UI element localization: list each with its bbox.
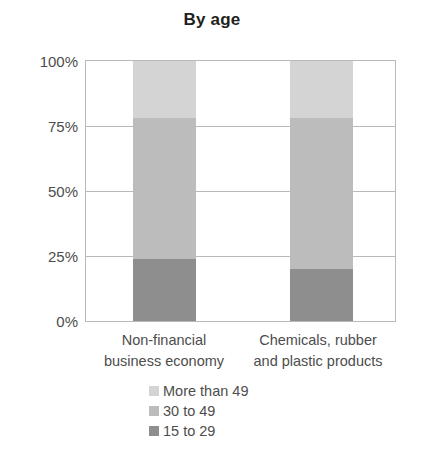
x-category-label-non-financial-business-economy: Non-financial business economy [88, 330, 240, 372]
y-tick-label-100: 100% [0, 53, 78, 70]
bar-segment-more-than-49 [290, 61, 353, 118]
x-category-label-line-1: Chemicals, rubber [242, 330, 394, 351]
bar-group-non-financial-business-economy [133, 61, 196, 321]
bar-stack [133, 61, 196, 321]
bar-segment-30-to-49 [133, 118, 196, 258]
x-category-label-line-1: Non-financial [88, 330, 240, 351]
bar-segment-more-than-49 [133, 61, 196, 118]
bar-segment-30-to-49 [290, 118, 353, 269]
x-category-label-line-2: business economy [88, 351, 240, 372]
legend-item-more-than-49: More than 49 [149, 381, 275, 401]
y-tick-label-50: 50% [0, 183, 78, 200]
bar-segment-15-to-29 [290, 269, 353, 321]
legend-item-label: 30 to 49 [163, 404, 215, 419]
legend-item-15-to-29: 15 to 29 [149, 421, 275, 441]
legend-swatch-icon [149, 386, 159, 396]
chart-container: By age 100% 75% 50% 25% 0% Non-f [0, 0, 424, 472]
y-axis: 100% 75% 50% 25% 0% [0, 60, 78, 322]
y-tick-label-25: 25% [0, 248, 78, 265]
plot-area [85, 60, 396, 322]
legend-swatch-icon [149, 406, 159, 416]
bar-segment-15-to-29 [133, 259, 196, 321]
legend-item-30-to-49: 30 to 49 [149, 401, 275, 421]
x-category-label-line-2: and plastic products [242, 351, 394, 372]
bar-stack [290, 61, 353, 321]
legend-swatch-icon [149, 426, 159, 436]
chart-title: By age [0, 10, 424, 30]
x-category-label-chemicals-rubber-and-plastic-products: Chemicals, rubber and plastic products [242, 330, 394, 372]
legend-item-label: More than 49 [163, 384, 248, 399]
bar-group-chemicals-rubber-and-plastic-products [290, 61, 353, 321]
y-tick-label-0: 0% [0, 313, 78, 330]
x-axis: Non-financial business economy Chemicals… [85, 330, 396, 378]
legend-item-label: 15 to 29 [163, 424, 215, 439]
legend: More than 49 30 to 49 15 to 29 [0, 381, 424, 441]
y-tick-label-75: 75% [0, 118, 78, 135]
